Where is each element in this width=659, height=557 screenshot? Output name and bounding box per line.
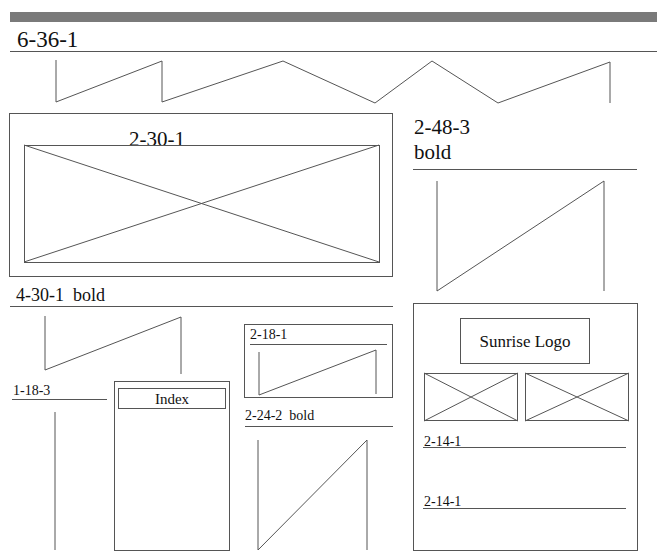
index-button[interactable]: Index [118, 388, 226, 409]
index-button-label: Index [119, 392, 225, 407]
left-column-divider [12, 399, 107, 400]
right-item-divider-2 [423, 508, 626, 509]
side-heading-divider [413, 169, 637, 170]
header-zigzag-line [56, 60, 610, 103]
right-item-divider-1 [423, 447, 626, 448]
section-heading-divider [10, 306, 393, 307]
top-banner-bar [10, 12, 657, 22]
left-column-label: 1-18-3 [13, 384, 50, 398]
side-heading-line2: bold [414, 142, 451, 163]
small-box-label: 2-18-1 [250, 328, 287, 342]
right-image-placeholder-2[interactable] [525, 373, 629, 421]
section-heading: 4-30-1 bold [16, 286, 105, 304]
right-image-placeholder-1[interactable] [424, 373, 518, 421]
mid-heading-divider [245, 426, 393, 427]
small-box-divider [250, 344, 387, 345]
section-sawtooth-line [45, 316, 181, 374]
mid-diagonal-line [258, 440, 367, 550]
side-diagonal-line [437, 181, 604, 291]
right-item-label-2: 2-14-1 [424, 495, 461, 509]
hero-image-placeholder[interactable] [24, 145, 380, 263]
header-divider [10, 51, 657, 52]
side-heading-line1: 2-48-3 [414, 117, 470, 138]
sunrise-logo-label: Sunrise Logo [461, 333, 589, 350]
page-title: 6-36-1 [17, 28, 78, 51]
sunrise-logo[interactable]: Sunrise Logo [460, 318, 590, 364]
mid-heading: 2-24-2 bold [245, 409, 314, 423]
